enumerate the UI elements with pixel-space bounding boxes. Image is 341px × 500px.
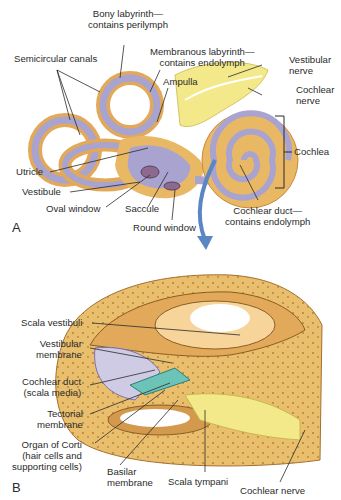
label-basilar-membrane: Basilar membrane xyxy=(107,466,153,488)
label-scala-tympani: Scala tympani xyxy=(168,476,228,487)
label-cochlear-duct-b: Cochlear duct (scala media) xyxy=(22,376,81,398)
label-cochlear-duct-a: Cochlear duct— contains endolymph xyxy=(225,205,310,227)
label-scala-vestibuli: Scala vestibuli xyxy=(21,317,82,328)
panel-letter-a: A xyxy=(12,220,21,235)
label-utricle: Utricle xyxy=(16,166,43,177)
label-ampulla: Ampulla xyxy=(163,76,198,87)
label-membranous-labyrinth: Membranous labyrinth— contains endolymph xyxy=(150,46,255,68)
label-bony-labyrinth: Bony labyrinth— contains perilymph xyxy=(88,8,168,30)
label-tectorial-membrane: Tectorial membrane xyxy=(37,408,83,430)
label-cochlear-nerve-b: Cochlear nerve xyxy=(240,485,305,496)
label-semicircular-canals: Semicircular canals xyxy=(14,53,97,64)
label-vestibular-nerve: Vestibular nerve xyxy=(289,54,331,76)
label-vestibular-membrane: Vestibular membrane xyxy=(36,338,82,360)
label-saccule: Saccule xyxy=(125,203,159,214)
cochlear-cross-section xyxy=(56,275,322,466)
panel-letter-b: B xyxy=(12,480,21,495)
label-organ-of-corti: Organ of Corti (hair cells and supportin… xyxy=(12,439,82,472)
label-oval-window: Oval window xyxy=(46,203,100,214)
label-round-window: Round window xyxy=(133,222,196,233)
label-cochlea: Cochlea xyxy=(294,146,329,157)
label-cochlear-nerve-a: Cochlear nerve xyxy=(296,84,334,106)
label-vestibule: Vestibule xyxy=(22,186,61,197)
